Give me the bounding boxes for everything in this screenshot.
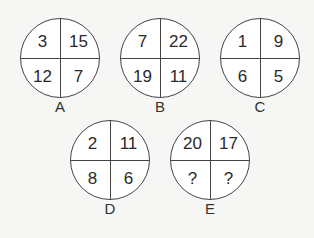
cell-bottom-left: 6	[223, 57, 262, 96]
circle-e-disc: 20 17 ? ?	[170, 120, 250, 200]
circle-b-disc: 7 22 19 11	[120, 18, 200, 98]
cell-top-left: 1	[223, 22, 262, 61]
cell-bottom-left: 12	[23, 57, 62, 96]
cell-top-left: 7	[123, 22, 162, 61]
circle-d: 2 11 8 6 D	[70, 120, 152, 220]
cell-top-right: 11	[109, 124, 148, 163]
circle-d-disc: 2 11 8 6	[70, 120, 150, 200]
circle-c: 1 9 6 5 C	[220, 18, 302, 118]
cell-bottom-right: 5	[259, 57, 298, 96]
circle-label: A	[20, 98, 100, 115]
cell-bottom-left: 19	[123, 57, 162, 96]
cell-top-left: 2	[73, 124, 112, 163]
cell-bottom-left: 8	[73, 159, 112, 198]
circle-c-disc: 1 9 6 5	[220, 18, 300, 98]
cell-top-right: 22	[159, 22, 198, 61]
cell-top-right: 17	[209, 124, 248, 163]
circle-a-disc: 3 15 12 7	[20, 18, 100, 98]
circle-b: 7 22 19 11 B	[120, 18, 202, 118]
cell-bottom-right: 11	[159, 57, 198, 96]
cell-bottom-right-unknown: ?	[209, 159, 248, 198]
cell-top-right: 9	[259, 22, 298, 61]
cell-top-right: 15	[59, 22, 98, 61]
circle-a: 3 15 12 7 A	[20, 18, 102, 118]
circle-e: 20 17 ? ? E	[170, 120, 252, 220]
circle-label: B	[120, 98, 200, 115]
circle-label: E	[170, 200, 250, 217]
cell-bottom-right: 7	[59, 57, 98, 96]
cell-bottom-right: 6	[109, 159, 148, 198]
circle-label: D	[70, 200, 150, 217]
number-circle-puzzle: 3 15 12 7 A 7 22 19 11 B 1 9 6 5 C	[0, 0, 314, 238]
cell-top-left: 20	[173, 124, 212, 163]
circle-label: C	[220, 98, 300, 115]
cell-bottom-left-unknown: ?	[173, 159, 212, 198]
cell-top-left: 3	[23, 22, 62, 61]
